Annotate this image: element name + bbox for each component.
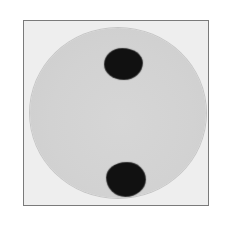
colony-top	[105, 49, 142, 79]
photo-frame	[23, 20, 209, 206]
colony-bottom	[107, 163, 145, 196]
petri-dish	[30, 28, 206, 198]
